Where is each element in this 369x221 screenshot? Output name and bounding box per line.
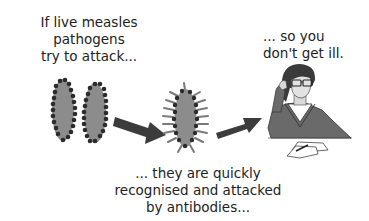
step-1-caption: If live measles pathogens try to attack.… [36,14,142,65]
measles-pathogen-icon [51,78,78,143]
measles-pathogen-icon [82,82,109,144]
step-2-caption: ... they are quickly recognised and atta… [108,165,288,216]
arrow-right-up-icon [216,118,262,139]
antibody-bound-pathogen-icon [163,83,208,152]
step-3-caption: ... so you don't get ill. [255,28,369,62]
arrow-right-down-icon [113,117,166,144]
healthy-person-icon [268,64,352,158]
